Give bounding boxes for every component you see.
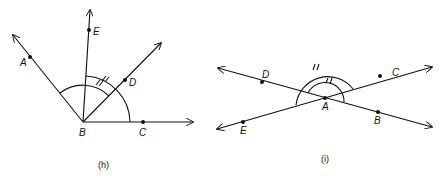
figure-h: A E D B C (h) xyxy=(13,10,193,170)
label-e: E xyxy=(240,125,247,136)
diagram-canvas: A E D B C (h) D C A B E (i) xyxy=(0,0,442,179)
label-e: E xyxy=(93,26,100,37)
point-e xyxy=(241,120,245,124)
figure-i: D C A B E (i) xyxy=(217,64,432,164)
caption-h: (h) xyxy=(98,160,109,170)
tick-mark xyxy=(96,80,100,85)
point-c xyxy=(141,120,145,124)
ray-bd xyxy=(83,43,161,122)
arc-ebc xyxy=(86,76,130,122)
label-d: D xyxy=(262,69,269,80)
point-e xyxy=(87,28,91,32)
ray-ba xyxy=(13,35,83,122)
point-d xyxy=(260,80,264,84)
tick-mark xyxy=(313,64,315,70)
tick-mark xyxy=(105,77,109,82)
label-c: C xyxy=(139,127,147,138)
ray-be xyxy=(83,10,90,122)
label-b: B xyxy=(79,127,86,138)
point-a xyxy=(323,96,327,100)
point-a xyxy=(28,55,32,59)
label-d: D xyxy=(129,77,136,88)
point-b xyxy=(376,110,380,114)
tick-mark xyxy=(99,81,103,86)
tick-mark xyxy=(317,64,319,70)
point-c xyxy=(378,74,382,78)
label-a: A xyxy=(321,101,329,112)
point-d xyxy=(123,78,127,82)
caption-i: (i) xyxy=(321,154,329,164)
label-a: A xyxy=(19,57,27,68)
label-c: C xyxy=(392,67,400,78)
label-b: B xyxy=(374,115,381,126)
